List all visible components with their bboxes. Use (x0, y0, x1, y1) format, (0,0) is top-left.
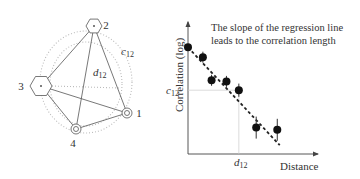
node-center-dot (40, 85, 42, 87)
dashed-regression-line (188, 47, 280, 145)
data-point (252, 117, 260, 139)
figure: 1234 d12 c12 Correlation (log) Distance … (0, 0, 360, 179)
data-point (235, 84, 243, 97)
point-marker (235, 86, 243, 94)
regression-line (188, 47, 280, 145)
outer-correlation-ring (40, 31, 132, 133)
edge-1-2 (94, 26, 127, 113)
node-label: 3 (18, 80, 24, 92)
point-marker (252, 124, 260, 132)
reference-guides (188, 90, 239, 154)
x-tick-d12: d12 (234, 156, 248, 170)
annotation-line-1: The slope of the regression line (211, 22, 343, 33)
network-diagram: 1234 d12 c12 (18, 19, 142, 149)
edge-3-1 (41, 86, 127, 113)
data-point (273, 119, 281, 141)
network-nodes: 1234 (18, 19, 142, 149)
dotted-guide-line (52, 86, 120, 88)
annotation-line-2: leads to the correlation length (211, 35, 337, 46)
edge-2-3 (41, 26, 94, 86)
data-points (184, 43, 281, 141)
y-axis-label: Correlation (log) (173, 37, 186, 112)
node-label: 4 (70, 137, 76, 149)
node-2: 2 (86, 19, 109, 33)
distance-label: d12 (93, 66, 107, 80)
point-marker (208, 76, 216, 84)
point-marker (199, 53, 207, 61)
data-point (184, 43, 192, 51)
inner-correlation-ring (50, 42, 122, 126)
point-marker (184, 43, 192, 51)
inner-circle (74, 127, 79, 132)
node-center-dot (93, 25, 95, 27)
edge-4-1 (76, 113, 127, 129)
correlation-label: c12 (121, 45, 134, 59)
x-axis-label: Distance (280, 160, 319, 172)
correlation-chart: Correlation (log) Distance The slope of … (166, 22, 343, 172)
node-label: 2 (103, 19, 109, 31)
point-marker (273, 126, 281, 134)
inner-circle (125, 111, 130, 116)
node-3: 3 (18, 77, 52, 96)
reference-guide-lines (188, 90, 239, 154)
node-label: 1 (136, 107, 142, 119)
node-1: 1 (122, 107, 142, 119)
edge-2-4 (76, 26, 94, 129)
node-4: 4 (70, 124, 81, 149)
point-marker (222, 77, 230, 85)
